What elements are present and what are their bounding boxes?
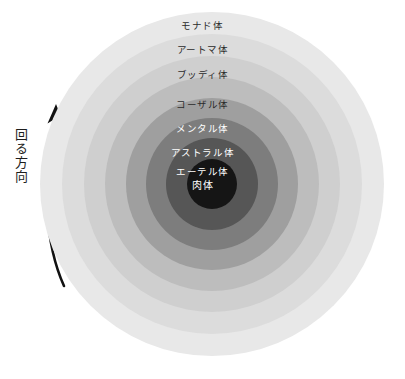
- ring-label-astral: アストラル体: [0, 148, 405, 158]
- rotation-direction-annotation: 回る方向: [8, 128, 34, 188]
- ring-label-causal: コーザル体: [0, 100, 405, 110]
- diagram-canvas: モナド体 アートマ体 ブッディ体 コーザル体 メンタル体 アストラル体 エーテル…: [0, 0, 405, 379]
- ring-label-buddhi: ブッディ体: [0, 70, 405, 80]
- ring-label-mental: メンタル体: [0, 124, 405, 134]
- ring-label-atma: アートマ体: [0, 45, 405, 55]
- ring-label-monad: モナド体: [0, 21, 405, 31]
- ring-label-etheric: エーテル体: [0, 167, 405, 177]
- ring-label-physical: 肉体: [0, 181, 405, 191]
